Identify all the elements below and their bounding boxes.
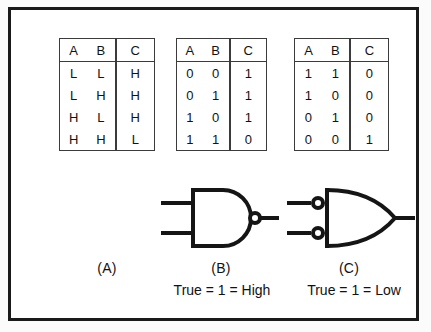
cell-a: 0: [178, 67, 202, 80]
cell-c: H: [117, 89, 154, 102]
table-row: L H: [60, 84, 115, 106]
column-header-a: A: [296, 43, 321, 58]
cell-a: 1: [296, 89, 321, 102]
cell-b: 1: [204, 133, 228, 146]
table-row: 1 0: [177, 106, 229, 128]
table-row-output: 1: [231, 62, 266, 84]
table-row: 1 1: [177, 128, 229, 150]
table-row-output: L: [117, 128, 154, 150]
cell-a: 0: [178, 89, 202, 102]
column-header-b: B: [204, 43, 228, 58]
cell-a: 0: [296, 133, 321, 146]
cell-c: H: [117, 111, 154, 124]
cell-a: 1: [296, 67, 321, 80]
cell-a: L: [61, 67, 86, 80]
table-row-output: H: [117, 62, 154, 84]
nand-output-bubble-icon: [250, 213, 260, 223]
table-row-output: H: [117, 84, 154, 106]
table-row: H H: [60, 128, 115, 150]
cell-a: 1: [178, 111, 202, 124]
column-header-a: A: [61, 43, 86, 58]
nand-gate-symbol: [161, 182, 279, 254]
table-row: 1 1: [295, 62, 349, 84]
cell-c: 0: [351, 89, 388, 102]
table-row-output: 1: [231, 84, 266, 106]
nor-body-outline: [327, 190, 395, 246]
cell-b: L: [88, 67, 113, 80]
caption-b: (B): [171, 260, 271, 276]
cell-a: L: [61, 89, 86, 102]
table-row: L L: [60, 62, 115, 84]
cell-b: 1: [323, 67, 348, 80]
table-row: 1 0: [295, 84, 349, 106]
table-row: 0 1: [295, 106, 349, 128]
truth-table-b-header-row: A B C: [177, 39, 266, 62]
cell-c: 0: [351, 67, 388, 80]
logic-gate-equivalence-figure: A B C L L L H: [0, 0, 431, 332]
column-header-b: B: [323, 43, 348, 58]
cell-a: H: [61, 133, 86, 146]
cell-c: 1: [231, 67, 266, 80]
table-row-output: H: [117, 106, 154, 128]
column-header-a: A: [178, 43, 202, 58]
column-header-c: C: [231, 43, 266, 58]
cell-c: 0: [231, 133, 266, 146]
truth-table-c: A B C 1 1 1 0: [294, 38, 389, 151]
table-row-output: 0: [351, 106, 388, 128]
cell-b: 0: [204, 67, 228, 80]
truth-table-b: A B C 0 0 0 1: [176, 38, 267, 151]
cell-b: 0: [323, 133, 348, 146]
negative-or-gate-symbol: [287, 182, 415, 254]
column-header-c: C: [117, 43, 154, 58]
table-row-output: 0: [351, 84, 388, 106]
sub-caption-b: True = 1 = High: [151, 282, 293, 298]
truth-table-c-header-row: A B C: [295, 39, 388, 62]
column-header-b: B: [88, 43, 113, 58]
cell-b: H: [88, 133, 113, 146]
cell-b: 1: [204, 89, 228, 102]
sub-caption-c: True = 1 = Low: [283, 282, 425, 298]
nand-body-outline: [193, 190, 251, 246]
table-row: H L: [60, 106, 115, 128]
cell-c: 0: [351, 111, 388, 124]
cell-c: L: [117, 133, 154, 146]
truth-table-a-header-row: A B C: [60, 39, 154, 62]
cell-c: 1: [231, 89, 266, 102]
figure-frame: A B C L L L H: [8, 7, 419, 321]
caption-c: (C): [299, 260, 399, 276]
cell-b: H: [88, 89, 113, 102]
truth-table-a: A B C L L L H: [59, 38, 155, 151]
column-header-c: C: [351, 43, 388, 58]
cell-b: 0: [204, 111, 228, 124]
nor-input-bubble-b-icon: [313, 228, 323, 238]
table-row: 0 0: [177, 62, 229, 84]
table-row: 0 1: [177, 84, 229, 106]
cell-c: H: [117, 67, 154, 80]
cell-a: 0: [296, 111, 321, 124]
table-row: 0 0: [295, 128, 349, 150]
table-row-output: 1: [351, 128, 388, 150]
table-row-output: 0: [231, 128, 266, 150]
caption-a: (A): [63, 260, 151, 276]
table-row-output: 0: [351, 62, 388, 84]
nor-input-bubble-a-icon: [313, 198, 323, 208]
cell-a: 1: [178, 133, 202, 146]
cell-c: 1: [231, 111, 266, 124]
cell-b: 0: [323, 89, 348, 102]
cell-b: L: [88, 111, 113, 124]
table-row-output: 1: [231, 106, 266, 128]
cell-b: 1: [323, 111, 348, 124]
cell-a: H: [61, 111, 86, 124]
cell-c: 1: [351, 133, 388, 146]
